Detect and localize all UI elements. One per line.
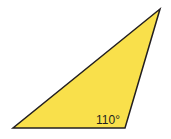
angle-label: 110°	[96, 113, 120, 127]
triangle	[13, 9, 160, 128]
triangle-diagram: 110°	[0, 0, 171, 139]
